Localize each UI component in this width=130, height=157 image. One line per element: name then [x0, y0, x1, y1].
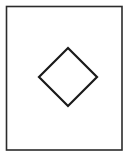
figure-svg	[0, 0, 130, 157]
figure-canvas	[0, 0, 130, 157]
